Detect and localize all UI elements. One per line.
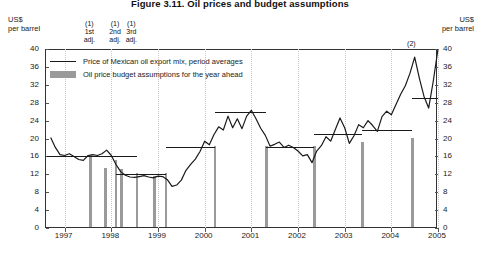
left-axis-unit-line1: US$ [8,15,40,24]
left-axis-unit: US$ per barrel [8,15,40,33]
right-axis-unit-line1: US$ [442,15,474,24]
x-label-2000: 2000 [184,231,224,240]
x-label-2002: 2002 [277,231,317,240]
x-label-1997: 1997 [44,231,84,240]
y-label-right-16: 16 [443,152,465,160]
y-label-right-4: 4 [443,206,465,214]
x-label-1999: 1999 [137,231,177,240]
x-label-1998: 1998 [90,231,130,240]
x-label-2004: 2004 [370,231,410,240]
y-label-left-12: 12 [19,170,39,178]
annotation-a4: (2) [399,40,423,48]
y-label-right-12: 12 [443,170,465,178]
gridline-2005 [438,49,439,228]
right-axis-unit: US$ per barrel [442,15,474,33]
y-label-right-8: 8 [443,188,465,196]
y-label-left-28: 28 [19,99,39,107]
y-label-left-20: 20 [19,135,39,143]
annotation-a3: (1)3rdadj. [116,20,146,44]
y-label-right-28: 28 [443,99,465,107]
y-label-left-40: 40 [19,45,39,53]
y-label-left-36: 36 [19,63,39,71]
legend-line-label: Price of Mexican oil export mix, period … [83,57,243,66]
y-label-right-40: 40 [443,45,465,53]
y-label-right-32: 32 [443,81,465,89]
x-label-2003: 2003 [324,231,364,240]
y-label-left-32: 32 [19,81,39,89]
x-label-2001: 2001 [230,231,270,240]
legend-line-icon [50,61,76,62]
annotation-line2: adj. [116,36,146,44]
legend-bar-icon [50,71,76,78]
figure-title: Figure 3.11. Oil prices and budget assum… [0,0,480,9]
legend: Price of Mexican oil export mix, period … [50,56,243,82]
annotation-ref: (1) [116,20,146,28]
legend-item-line: Price of Mexican oil export mix, period … [50,56,243,67]
y-label-left-4: 4 [19,206,39,214]
x-label-2005: 2005 [417,231,457,240]
y-label-left-8: 8 [19,188,39,196]
figure-root: Figure 3.11. Oil prices and budget assum… [0,0,480,257]
y-label-right-36: 36 [443,63,465,71]
y-label-left-0: 0 [19,224,39,232]
y-label-left-24: 24 [19,117,39,125]
annotation-line1: 3rd [116,28,146,36]
legend-item-bar: Oil price budget assumptions for the yea… [50,69,243,80]
right-axis-unit-line2: per barrel [442,24,474,33]
legend-bar-label: Oil price budget assumptions for the yea… [83,70,243,79]
y-label-right-20: 20 [443,135,465,143]
y-label-right-24: 24 [443,117,465,125]
y-label-left-16: 16 [19,152,39,160]
left-axis-unit-line2: per barrel [8,24,40,33]
y-tick-left-0 [46,228,49,229]
